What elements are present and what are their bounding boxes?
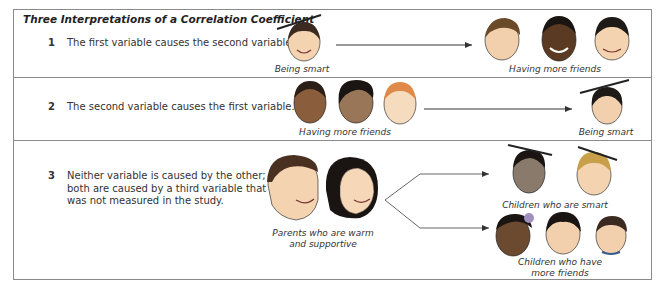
row-3-fork-arrows-icon [385,174,489,228]
friend-child-face-icon [294,81,326,123]
parent-father-face-icon [267,155,318,220]
friend-child-face-icon [596,216,627,254]
illustration-layer [0,0,667,298]
smart-child-face-icon [577,147,617,195]
smart-child-face-icon [508,145,552,193]
parent-mother-face-icon [326,157,378,218]
friend-child-face-icon [384,82,416,124]
friend-child-face-icon [485,18,520,60]
smart-child-face-icon [580,80,629,124]
friend-child-face-icon [542,16,576,61]
smart-child-face-icon [277,15,321,61]
friend-child-face-icon [496,213,534,256]
friend-child-face-icon [595,17,629,60]
friend-child-face-icon [339,80,374,123]
friend-child-face-icon [546,212,581,254]
